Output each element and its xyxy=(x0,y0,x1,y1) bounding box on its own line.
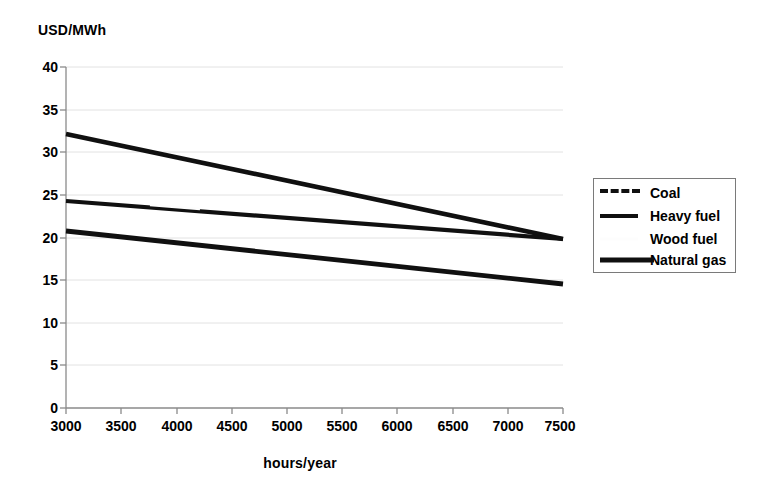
legend-label: Heavy fuel xyxy=(650,209,720,223)
y-tick-marks xyxy=(60,67,66,408)
series-line-heavy-fuel xyxy=(66,201,563,239)
gridlines xyxy=(66,67,563,365)
series-line-coal xyxy=(66,134,563,239)
legend-swatch-solid-icon xyxy=(594,205,650,227)
legend-label: Natural gas xyxy=(650,253,726,267)
x-tick-marks xyxy=(66,408,563,414)
legend-swatch-dashed-icon xyxy=(594,182,650,204)
legend-item-natural-gas: Natural gas xyxy=(594,249,737,271)
legend-swatch-thick-icon xyxy=(594,249,650,271)
legend-label: Wood fuel xyxy=(650,232,717,246)
legend-label: Coal xyxy=(650,186,680,200)
series-line-natural-gas xyxy=(66,231,563,284)
chart-legend: Coal Heavy fuel Wood fuel Natural gas xyxy=(593,178,736,273)
legend-item-coal: Coal xyxy=(594,182,737,204)
legend-swatch-light-icon xyxy=(594,228,650,250)
chart-container: USD/MWh 40 35 30 25 20 15 10 5 0 3000 35… xyxy=(0,0,769,500)
legend-item-heavy-fuel: Heavy fuel xyxy=(594,205,737,227)
legend-item-wood-fuel: Wood fuel xyxy=(594,228,737,250)
